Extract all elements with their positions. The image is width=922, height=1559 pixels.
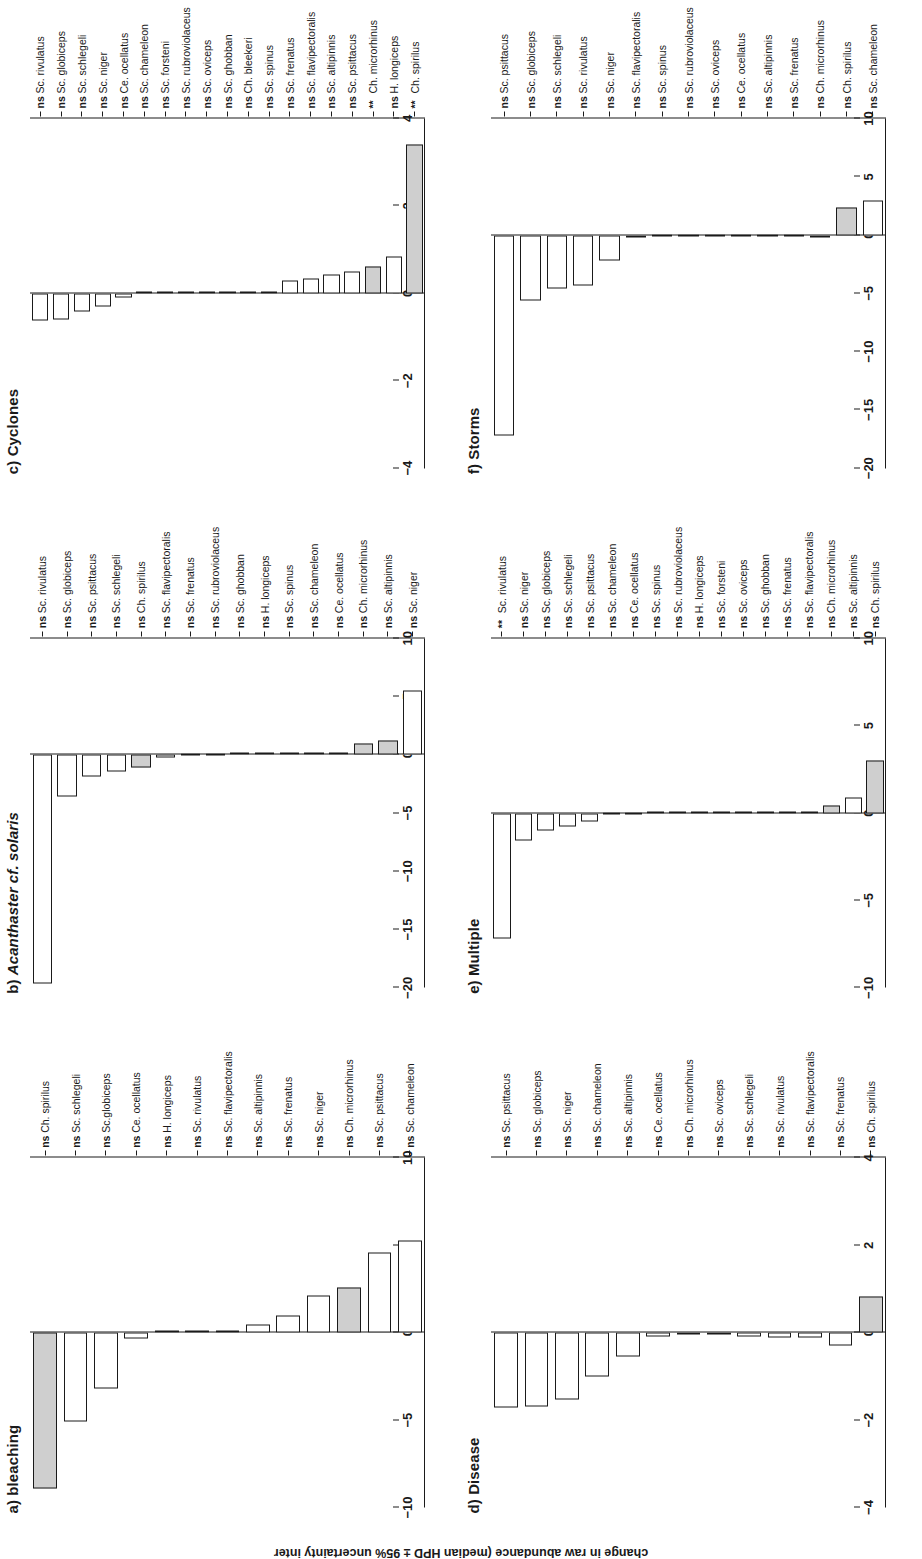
bar xyxy=(304,752,323,754)
bar xyxy=(515,813,532,841)
significance-label: ns xyxy=(263,95,275,108)
category-tick-icon xyxy=(141,631,142,636)
panel-f: f) Storms1050−5−10−15−20nsSc. psittacusn… xyxy=(461,0,922,520)
species-name: Sc. oviceps xyxy=(201,39,213,93)
category-tick-icon xyxy=(248,111,249,116)
significance-label: ns xyxy=(737,615,749,628)
category-tick-icon xyxy=(165,631,166,636)
significance-label: ns xyxy=(252,1134,264,1147)
significance-label: ns xyxy=(788,95,800,108)
significance-label: ns xyxy=(577,95,589,108)
bar xyxy=(398,1240,422,1333)
significance-label: ns xyxy=(325,95,337,108)
bar xyxy=(64,1332,88,1421)
species-name: Sc. psittacus xyxy=(498,33,510,93)
significance-label: ns xyxy=(86,615,98,628)
bar xyxy=(678,234,699,236)
significance-label: ns xyxy=(683,1134,695,1147)
significance-label: ns xyxy=(130,1134,142,1147)
species-name: Sc. oviceps xyxy=(713,1079,725,1133)
species-name: Sc. altipinnis xyxy=(762,34,774,93)
significance-label: ns xyxy=(61,615,73,628)
category-tick-icon xyxy=(313,631,314,636)
bar xyxy=(199,291,215,293)
category-axis-spine xyxy=(30,117,425,118)
bar xyxy=(368,1252,392,1332)
bar xyxy=(82,754,101,776)
species-name: Sc. forsteni xyxy=(715,560,727,613)
significance-label: ns xyxy=(656,95,668,108)
category-tick-icon xyxy=(116,631,117,636)
significance-label: ns xyxy=(201,95,213,108)
category-tick-icon xyxy=(530,111,531,116)
bar xyxy=(261,291,277,293)
category-tick-icon xyxy=(658,1150,659,1155)
category-tick-icon xyxy=(545,631,546,636)
bar xyxy=(707,1332,731,1334)
significance-label: ns xyxy=(209,615,221,628)
species-name: Ce. ocellatus xyxy=(118,32,130,93)
significance-label: ns xyxy=(865,1134,877,1147)
species-name: Ch. microrhinus xyxy=(683,1059,695,1133)
significance-label: ns xyxy=(180,95,192,108)
species-name: Sc. rubroviolaceus xyxy=(209,526,221,612)
bars-group xyxy=(491,638,886,988)
species-name: Sc. schlegeli xyxy=(110,554,122,613)
bar xyxy=(784,234,805,236)
category-tick-icon xyxy=(387,631,388,636)
bar xyxy=(378,740,397,754)
category-tick-icon xyxy=(501,631,502,636)
species-name: Sc. niger xyxy=(97,52,109,93)
bar xyxy=(57,754,76,796)
plot-area-a: 1050−5−10nsCh. spirilusnsSc. schlegelins… xyxy=(30,1157,425,1507)
bar xyxy=(823,805,840,813)
bar xyxy=(230,752,249,754)
significance-label: ns xyxy=(343,1134,355,1147)
significance-label: ns xyxy=(709,95,721,108)
species-name: Ch. spirilus xyxy=(409,41,421,93)
significance-label: ns xyxy=(869,615,881,628)
species-name: Sc. rubroviolaceus xyxy=(180,7,192,93)
significance-label: ns xyxy=(628,615,640,628)
significance-label: ns xyxy=(184,615,196,628)
significance-label: ns xyxy=(562,615,574,628)
species-name: H. longiceps xyxy=(259,555,271,613)
category-tick-icon xyxy=(655,631,656,636)
species-name: Sc. globiceps xyxy=(540,550,552,612)
species-name: Ce. ocellatus xyxy=(130,1072,142,1133)
species-name: Sc. ghobban xyxy=(759,554,771,613)
species-name: Sc. frenatus xyxy=(284,37,296,93)
significance-label: ns xyxy=(650,615,662,628)
panel-title-d: d) Disease xyxy=(465,1437,482,1513)
species-name: Sc. schlegeli xyxy=(551,34,563,93)
category-tick-icon xyxy=(105,1150,106,1155)
significance-label: ns xyxy=(373,1134,385,1147)
bar xyxy=(559,813,576,827)
species-name: Sc. niger xyxy=(407,571,419,612)
species-name: Sc. psittacus xyxy=(500,1073,512,1133)
significance-label: ns xyxy=(867,95,879,108)
bar xyxy=(403,690,422,754)
panel-title-c: c) Cyclones xyxy=(4,388,21,473)
bar xyxy=(115,293,131,297)
category-tick-icon xyxy=(677,631,678,636)
bar xyxy=(779,811,796,813)
category-tick-icon xyxy=(67,631,68,636)
category-tick-icon xyxy=(597,1150,598,1155)
significance-label: ns xyxy=(525,95,537,108)
significance-label: ns xyxy=(518,615,530,628)
bar xyxy=(181,753,200,755)
species-name: Sc. rubroviolaceus xyxy=(683,7,695,93)
category-tick-icon xyxy=(840,1150,841,1155)
category-tick-icon xyxy=(197,1150,198,1155)
bar xyxy=(836,207,857,235)
significance-label: ns xyxy=(841,95,853,108)
bar xyxy=(677,1332,701,1334)
significance-label: ns xyxy=(388,95,400,108)
bars-group xyxy=(30,638,425,988)
panel-title-b: b) Acanthaster cf. solaris xyxy=(4,812,21,994)
bar xyxy=(731,234,752,236)
category-tick-icon xyxy=(206,111,207,116)
bar xyxy=(255,752,274,754)
bar xyxy=(585,1332,609,1376)
